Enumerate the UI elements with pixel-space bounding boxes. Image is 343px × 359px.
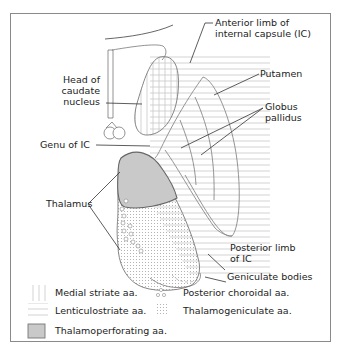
label-caudate-head: Head of caudate nucleus xyxy=(52,74,100,107)
label-globus-pallidus: Globus pallidus xyxy=(265,101,302,123)
label-geniculate-bodies: Geniculate bodies xyxy=(227,271,312,282)
legend-thalamogeniculate: Thalamogeniculate aa. xyxy=(183,305,292,316)
legend-medial-striate: Medial striate aa. xyxy=(55,287,138,298)
legend-lenticulostriate: Lenticulostriate aa. xyxy=(55,305,146,316)
label-anterior-limb-ic: Anterior limb of internal capsule (IC) xyxy=(215,17,311,39)
label-putamen: Putamen xyxy=(260,68,302,79)
label-thalamus: Thalamus xyxy=(46,198,92,209)
legend-thalamoperforating: Thalamoperforating aa. xyxy=(55,325,167,336)
legend-posterior-choroidal: Posterior choroidal aa. xyxy=(183,287,289,298)
label-posterior-limb-ic: Posterior limb of IC xyxy=(230,242,296,264)
label-genu-ic: Genu of IC xyxy=(40,139,90,150)
corpus-callosum-line xyxy=(105,25,173,39)
